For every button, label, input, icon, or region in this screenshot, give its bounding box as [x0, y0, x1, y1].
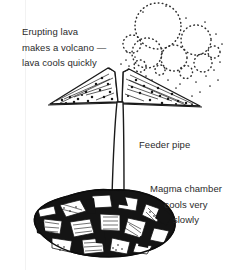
- magma-chamber-label: Magma chamber cools very slowly: [150, 181, 222, 228]
- feeder-pipe-label: Feeder pipe: [139, 137, 190, 153]
- erupting-lava-label: Erupting lava makes a volcano — lava coo…: [22, 24, 106, 71]
